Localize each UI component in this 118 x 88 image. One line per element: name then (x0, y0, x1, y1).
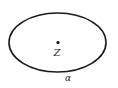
point-label: Z (53, 47, 62, 58)
boundary-label: α (65, 73, 71, 83)
ellipse-diagram: Z α (0, 0, 118, 88)
center-point (56, 41, 59, 44)
